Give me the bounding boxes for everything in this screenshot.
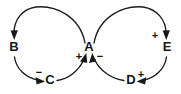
polarity-sign-d-to-a: − xyxy=(97,50,103,62)
node-label-d: D xyxy=(126,72,135,87)
edge-b-to-c-arrowhead xyxy=(36,77,46,84)
polarity-sign-e-to-d: + xyxy=(138,68,144,80)
edge-c-to-a xyxy=(57,53,87,81)
edge-a-to-b xyxy=(11,7,85,43)
edge-a-to-e xyxy=(94,7,170,43)
node-label-c: C xyxy=(45,72,55,87)
edge-c-to-a-path xyxy=(57,59,84,81)
edge-a-to-b-path xyxy=(14,7,85,43)
polarity-sign-c-to-a: + xyxy=(76,50,82,62)
node-label-b: B xyxy=(9,39,18,54)
polarity-sign-b-to-c: − xyxy=(36,66,42,78)
edge-e-to-d-path xyxy=(143,57,167,81)
causal-loop-diagram: A B C D E + − − + + xyxy=(0,0,181,94)
diagram-canvas: A B C D E + − − + + xyxy=(0,0,181,94)
node-label-a: A xyxy=(84,39,94,54)
edge-d-to-a xyxy=(89,53,124,81)
edge-d-to-a-arrowhead xyxy=(89,53,96,63)
edge-d-to-a-path xyxy=(95,59,125,81)
node-label-e: E xyxy=(163,39,172,54)
polarity-sign-a-to-e: + xyxy=(152,29,158,41)
